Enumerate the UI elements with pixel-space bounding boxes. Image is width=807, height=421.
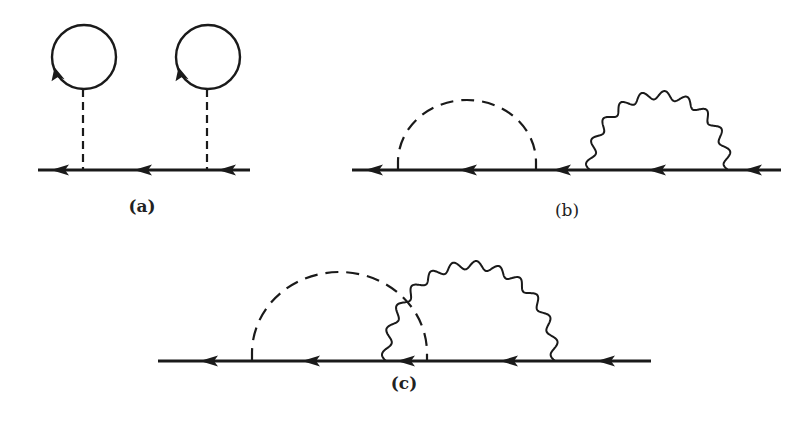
diagram-b-label: (b): [555, 200, 579, 220]
photon-propagator-wavy: [382, 261, 558, 361]
diagram-a-label: (a): [128, 196, 155, 216]
scalar-propagator-dashed: [398, 100, 536, 170]
diagram-a-tadpoles: [38, 25, 250, 176]
diagram-c-label: (c): [391, 373, 417, 393]
fermion-loop-circle: [176, 25, 240, 89]
scalar-propagator-dashed: [252, 272, 427, 361]
photon-propagator-wavy: [586, 91, 730, 170]
diagram-b-self-energy: [352, 91, 781, 175]
fermion-loop-circle: [52, 25, 116, 89]
diagram-c-crossed-self-energy: [158, 261, 651, 366]
feynman-diagram-canvas: [0, 0, 807, 421]
